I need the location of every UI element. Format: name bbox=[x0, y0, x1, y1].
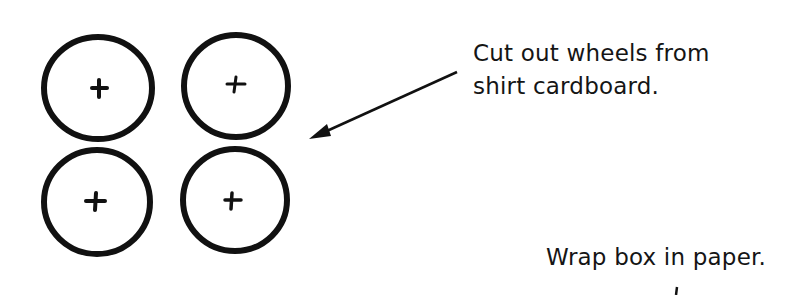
note-line: Cut out wheels from bbox=[473, 37, 710, 70]
arrow-stub bbox=[676, 287, 677, 295]
center-mark-top-right bbox=[227, 77, 245, 92]
note-line: shirt cardboard. bbox=[473, 70, 710, 103]
cut-out-wheels-note: Cut out wheels from shirt cardboard. bbox=[473, 37, 710, 103]
note-line: Wrap box in paper. bbox=[546, 241, 766, 274]
center-mark-top-left bbox=[92, 80, 107, 97]
arrow bbox=[309, 72, 457, 139]
arrowhead-icon bbox=[309, 124, 331, 139]
center-mark-bottom-left bbox=[86, 193, 105, 210]
center-mark-bottom-right bbox=[225, 193, 241, 209]
wrap-box-note: Wrap box in paper. bbox=[546, 241, 766, 274]
